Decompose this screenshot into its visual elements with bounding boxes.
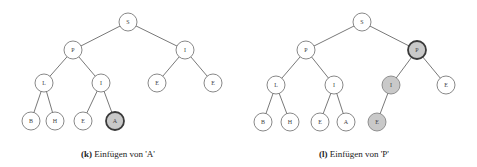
node-label: E	[155, 80, 159, 86]
node-label: E	[211, 80, 215, 86]
node-label: L	[274, 82, 278, 88]
tree-node-e: E	[204, 74, 222, 92]
node-label: L	[42, 80, 46, 86]
node-label: I	[390, 82, 392, 88]
node-label: S	[126, 19, 129, 25]
tree-node-p: P	[297, 41, 315, 59]
node-label: E	[81, 118, 85, 124]
tree-node-l: L	[267, 76, 285, 94]
tree-node-h: H	[281, 113, 299, 131]
tree-node-s: S	[353, 13, 371, 31]
node-label: E	[318, 119, 322, 125]
tree-node-e: E	[437, 76, 455, 94]
node-label: H	[53, 118, 58, 124]
tree-node-i: I	[325, 76, 343, 94]
tree-node-a: A	[337, 113, 355, 131]
tree-node-e: E	[148, 74, 166, 92]
caption-text: Einfügen von 'P'	[330, 149, 389, 159]
tree-node-i: I	[92, 74, 110, 92]
tree-node-i: I	[382, 76, 400, 94]
node-label: A	[113, 118, 118, 124]
node-label: B	[261, 119, 265, 125]
caption-tag: (k)	[81, 149, 92, 159]
caption-figure-l: (l) Einfügen von 'P'	[319, 149, 389, 159]
tree-node-e: E	[368, 113, 386, 131]
tree-node-e: E	[74, 112, 92, 130]
tree-nodes: SPILIEEBHEASPPLIIEBHEAE	[22, 13, 455, 131]
node-label: E	[444, 82, 448, 88]
tree-node-b: B	[22, 112, 40, 130]
node-label: E	[375, 119, 379, 125]
node-label: A	[344, 119, 349, 125]
caption-figure-k: (k) Einfügen von 'A'	[81, 149, 155, 159]
node-label: S	[360, 19, 363, 25]
tree-node-p: P	[408, 41, 426, 59]
tree-node-p: P	[64, 41, 82, 59]
tree-edge	[128, 22, 185, 50]
node-label: I	[100, 80, 102, 86]
tree-node-a: A	[106, 112, 124, 130]
tree-node-b: B	[254, 113, 272, 131]
tree-node-s: S	[119, 13, 137, 31]
caption-text: Einfügen von 'A'	[94, 149, 155, 159]
tree-node-h: H	[46, 112, 64, 130]
node-label: I	[184, 47, 186, 53]
node-label: B	[29, 118, 33, 124]
caption-tag: (l)	[319, 149, 328, 159]
node-label: H	[288, 119, 293, 125]
node-label: I	[333, 82, 335, 88]
tree-node-i: I	[176, 41, 194, 59]
tree-node-e: E	[311, 113, 329, 131]
heap-diagram: SPILIEEBHEASPPLIIEBHEAE	[0, 0, 477, 167]
tree-node-l: L	[35, 74, 53, 92]
tree-edges	[31, 22, 446, 122]
